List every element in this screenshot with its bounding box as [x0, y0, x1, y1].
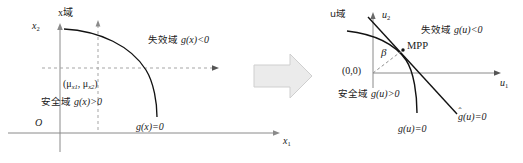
u-space-panel: u域 u2 失效域 g(u)<0 MPP β (0,0) u1 安全域 g(u)…	[280, 0, 523, 163]
beta-distance-dashed-line	[373, 50, 403, 73]
x-space-safe-region-label: 安全域 g(x)>0	[41, 97, 102, 107]
x-space-origin-label: O	[35, 118, 42, 128]
x-space-failure-region-label: 失效域 g(x)<0	[148, 35, 209, 45]
hat-accent-icon: ˆ	[459, 107, 462, 116]
x-space-y-axis-label: x2	[32, 21, 40, 32]
u-space-safe-region-label: 安全域 g(u)>0	[338, 89, 399, 99]
u-space-y-axis-label: u2	[382, 10, 390, 21]
u-space-svg	[280, 0, 523, 163]
mpp-label: MPP	[407, 41, 428, 52]
u-space-failure-region-label: 失效域 g(u)<0	[421, 25, 482, 35]
mean-horizontal-dashed-arrowhead	[212, 65, 219, 71]
figure-container: x2 x域 失效域 g(x)<0 (μx1, μx2) 安全域 g(x)>0 O…	[0, 0, 523, 163]
u-space-limit-state-approx-label: ˆg(u)=0	[458, 112, 486, 122]
x-space-panel: x2 x域 失效域 g(x)<0 (μx1, μx2) 安全域 g(x)>0 O…	[0, 0, 265, 163]
u-space-origin-label: (0,0)	[342, 66, 361, 76]
x1-axis-arrowhead	[273, 130, 280, 136]
u1-axis-arrowhead	[494, 70, 501, 75]
u-space-limit-state-true-label: g(u)=0	[398, 124, 426, 134]
x2-axis-arrowhead	[57, 23, 63, 30]
u-space-region-label: u域	[330, 9, 346, 19]
x-space-region-label: x域	[58, 8, 73, 18]
x-space-limit-state-label: g(x)=0	[136, 122, 164, 132]
beta-label: β	[381, 47, 386, 58]
mpp-point-marker	[401, 48, 404, 51]
u2-axis-arrowhead	[370, 12, 375, 19]
x-space-mean-point-label: (μx1, μx2)	[63, 79, 98, 90]
mean-vertical-dashed-arrowhead	[96, 20, 101, 27]
x-space-svg	[0, 0, 265, 163]
u-space-x-axis-label: u1	[500, 78, 508, 89]
